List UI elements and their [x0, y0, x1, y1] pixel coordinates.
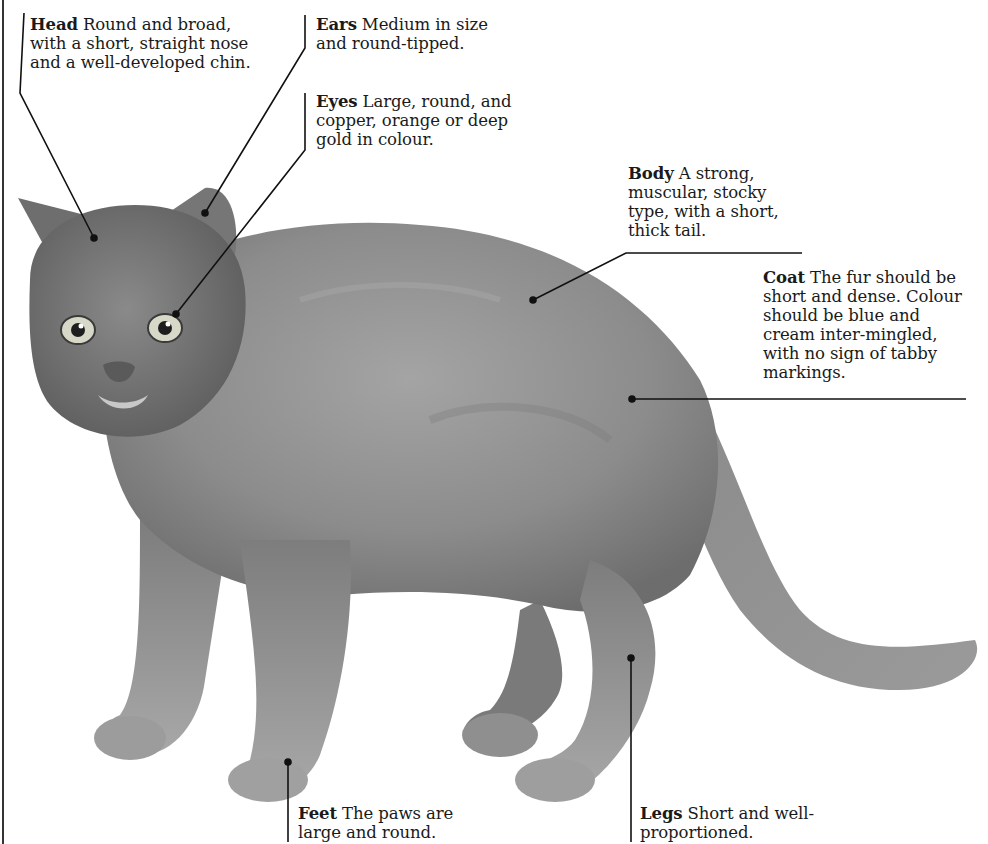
- cat-head: [18, 188, 246, 437]
- annotation-coat-term: Coat: [763, 268, 805, 287]
- annotation-feet-term: Feet: [298, 804, 337, 823]
- cat-hind-leg-far: [462, 600, 562, 757]
- annotation-coat: CoatThe fur should be short and dense. C…: [763, 268, 968, 382]
- annotation-head-term: Head: [30, 15, 78, 34]
- annotation-ears: EarsMedium in size and round-tipped.: [316, 15, 516, 53]
- annotation-legs: LegsShort and well-proportioned.: [640, 804, 840, 842]
- annotation-ears-term: Ears: [316, 15, 357, 34]
- annotation-eyes-term: Eyes: [316, 92, 358, 111]
- annotation-body-term: Body: [628, 164, 674, 183]
- annotation-head: HeadRound and broad, with a short, strai…: [30, 15, 260, 72]
- annotation-feet: FeetThe paws are large and round.: [298, 804, 498, 842]
- annotation-body: BodyA strong, muscular, stocky type, wit…: [628, 164, 808, 240]
- annotation-legs-term: Legs: [640, 804, 683, 823]
- annotation-eyes: EyesLarge, round, and copper, orange or …: [316, 92, 536, 149]
